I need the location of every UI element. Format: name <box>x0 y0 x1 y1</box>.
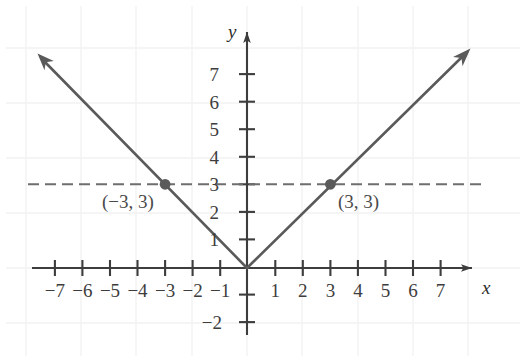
x-tick-label-7: 7 <box>436 281 446 300</box>
point-annotation-left: (−3, 3) <box>102 192 154 211</box>
y-axis-label: y <box>228 22 236 41</box>
background-grid <box>6 6 520 356</box>
x-axis-label: x <box>482 278 490 297</box>
x-tick-label-6: 6 <box>408 281 418 300</box>
y-tick-label-minus2: −2 <box>202 313 222 332</box>
x-tick-label-3: 3 <box>326 281 336 300</box>
x-tick-label-minus4: −4 <box>127 281 147 300</box>
x-tick-label-minus3: −3 <box>155 281 175 300</box>
y-tick-label-1: 1 <box>210 230 220 249</box>
marker-point-neg3-3 <box>160 179 171 190</box>
y-tick-label-5: 5 <box>210 120 220 139</box>
x-tick-label-minus1: −1 <box>210 281 230 300</box>
coordinate-plane <box>0 0 526 362</box>
x-tick-label-minus2: −2 <box>182 281 202 300</box>
y-tick-label-7: 7 <box>210 65 220 84</box>
x-tick-label-5: 5 <box>381 281 391 300</box>
y-tick-label-3: 3 <box>210 175 220 194</box>
x-tick-label-minus5: −5 <box>100 281 120 300</box>
graph-figure: y x 7 6 5 4 3 2 1 −2 −7 −6 −5 −4 −3 −2 −… <box>0 0 526 362</box>
marker-point-3-3 <box>325 179 336 190</box>
x-tick-label-1: 1 <box>271 281 281 300</box>
x-tick-label-minus7: −7 <box>45 281 65 300</box>
x-tick-label-minus6: −6 <box>72 281 92 300</box>
y-tick-label-6: 6 <box>210 93 220 112</box>
x-tick-label-2: 2 <box>298 281 308 300</box>
x-axis <box>32 264 472 272</box>
y-tick-label-2: 2 <box>210 203 220 222</box>
y-tick-label-4: 4 <box>210 148 220 167</box>
x-tick-label-4: 4 <box>353 281 363 300</box>
point-annotation-right: (3, 3) <box>338 192 379 211</box>
